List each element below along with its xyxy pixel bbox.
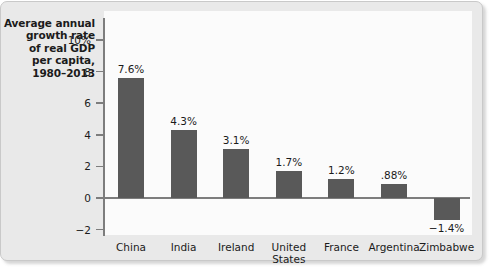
y-tick-mark [96, 229, 104, 231]
category-label: China [116, 241, 146, 253]
bar [328, 179, 354, 198]
y-tick-label: −2 [51, 224, 91, 236]
y-tick-label: 10% [51, 34, 91, 46]
bar [381, 184, 407, 198]
title-line-1: Average annual [2, 17, 95, 29]
y-tick-label: 0 [51, 192, 91, 204]
bar [171, 130, 197, 198]
bar [223, 149, 249, 198]
y-tick-mark [96, 166, 104, 168]
category-label-line: China [116, 241, 146, 253]
category-label-line: India [171, 241, 197, 253]
bar-value-label: .88% [381, 169, 408, 181]
y-tick-mark [96, 39, 104, 41]
plot-area [104, 11, 472, 235]
category-label-line: Zimbabwe [419, 241, 474, 253]
y-tick-label: 6 [51, 97, 91, 109]
category-label: Argentina [368, 241, 419, 253]
category-label: Zimbabwe [419, 241, 474, 253]
bar-value-label: 4.3% [170, 115, 197, 127]
y-tick-label: 8 [51, 66, 91, 78]
category-label: UnitedStates [272, 241, 307, 265]
category-label: India [171, 241, 197, 253]
bar-value-label: 3.1% [223, 134, 250, 146]
bar [118, 78, 144, 198]
category-label: France [324, 241, 359, 253]
category-label-line: Ireland [218, 241, 254, 253]
category-label-line: France [324, 241, 359, 253]
category-label-line: Argentina [368, 241, 419, 253]
bar-value-label: −1.4% [429, 222, 464, 234]
bar [434, 198, 460, 220]
y-tick-label: 4 [51, 129, 91, 141]
y-tick-label: 2 [51, 160, 91, 172]
y-tick-mark [96, 102, 104, 104]
y-tick-mark [96, 197, 104, 199]
category-label: Ireland [218, 241, 254, 253]
bar-value-label: 1.7% [275, 156, 302, 168]
category-label-line: United [272, 241, 307, 253]
category-label-line: States [272, 253, 307, 265]
y-axis-line [103, 18, 105, 236]
bar [276, 171, 302, 198]
y-tick-mark [96, 134, 104, 136]
y-tick-mark [96, 71, 104, 73]
bar-value-label: 1.2% [328, 164, 355, 176]
bar-value-label: 7.6% [118, 63, 145, 75]
chart-figure: Average annual growth rate of real GDP p… [0, 0, 491, 269]
